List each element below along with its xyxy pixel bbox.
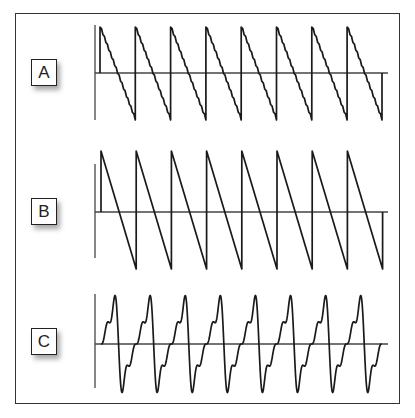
- waveform-canvas: [0, 0, 415, 418]
- waveform-path: [101, 151, 383, 269]
- panel-a-stepped-sawtooth: [95, 25, 388, 120]
- panel-b-sawtooth: [95, 151, 388, 269]
- panel-c-harmonic-sawtooth: [95, 294, 388, 393]
